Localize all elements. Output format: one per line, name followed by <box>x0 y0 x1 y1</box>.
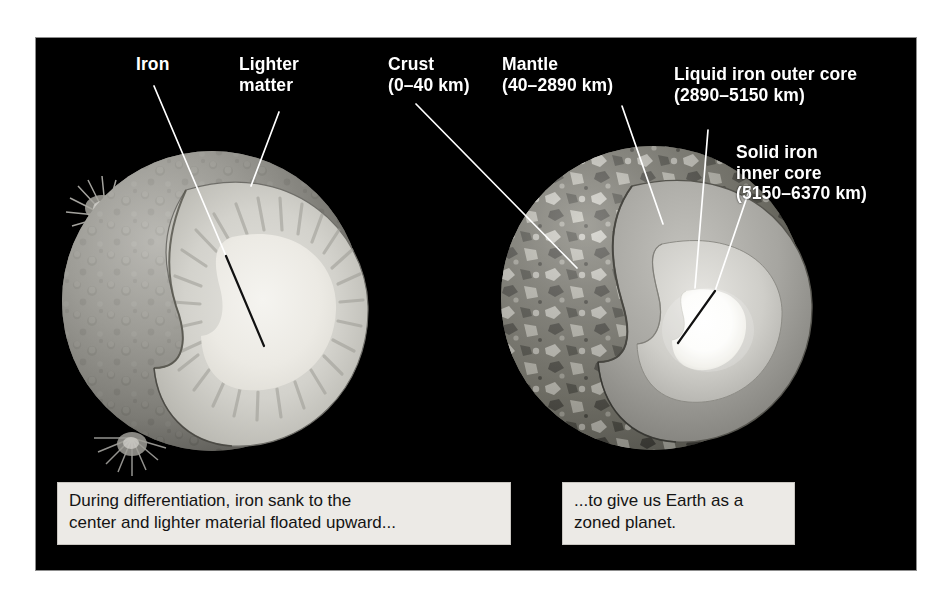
caption-left: During differentiation, iron sank to the… <box>57 482 511 545</box>
label-mantle: Mantle (40–2890 km) <box>502 54 613 95</box>
label-crust: Crust (0–40 km) <box>388 54 470 95</box>
label-lighter-matter: Lighter matter <box>239 54 299 95</box>
diagram-panel: Iron Lighter matter Crust (0–40 km) Mant… <box>36 38 916 570</box>
label-iron: Iron <box>136 54 169 75</box>
label-outer-core: Liquid iron outer core (2890–5150 km) <box>674 64 857 105</box>
label-inner-core: Solid iron inner core (5150–6370 km) <box>736 142 867 204</box>
earth-differentiation-figure: Iron Lighter matter Crust (0–40 km) Mant… <box>0 0 950 599</box>
proto-earth-artwork <box>62 151 368 476</box>
caption-right: ...to give us Earth as a zoned planet. <box>562 482 795 545</box>
